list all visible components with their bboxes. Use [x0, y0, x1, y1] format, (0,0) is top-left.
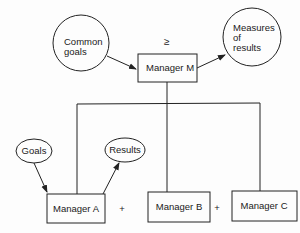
mbo-diagram: Common goals ≥ Manager M Measures of res… — [0, 0, 300, 233]
common-goals-arrow — [107, 56, 136, 69]
goals-label: Goals — [22, 145, 47, 156]
node-manager-c: Manager C — [232, 191, 297, 221]
measures-arrow — [197, 55, 225, 68]
common-goals-label-line2: goals — [64, 46, 87, 57]
measures-label-line3: results — [233, 42, 261, 53]
results-arrow — [103, 163, 119, 194]
node-manager-b: Manager B — [148, 192, 210, 222]
greater-equal-symbol: ≥ — [164, 36, 170, 47]
manager-m-label: Manager M — [146, 62, 194, 73]
results-label: Results — [109, 144, 141, 155]
manager-c-label: Manager C — [241, 200, 288, 211]
node-results: Results — [105, 138, 145, 162]
plus-sign-1: + — [119, 203, 125, 214]
goals-arrow — [34, 163, 47, 192]
plus-sign-2: + — [214, 202, 220, 213]
node-manager-m: Manager M — [138, 54, 197, 82]
horizontal-branch-line — [77, 103, 260, 104]
node-goals: Goals — [16, 139, 52, 163]
node-measures-of-results: Measures of results — [223, 8, 281, 66]
node-manager-a: Manager A — [47, 194, 105, 223]
manager-a-label: Manager A — [53, 203, 100, 214]
node-common-goals: Common goals — [53, 15, 109, 71]
manager-b-label: Manager B — [156, 201, 202, 212]
